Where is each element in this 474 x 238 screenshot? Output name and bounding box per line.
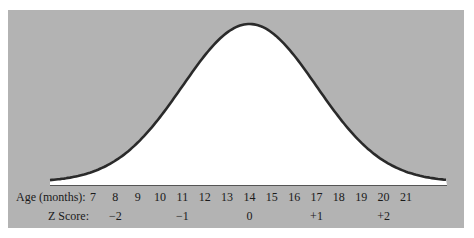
age-tick-19: 19 <box>355 190 367 205</box>
z-score-tick: +2 <box>377 209 390 224</box>
z-score-tick: 0 <box>246 209 252 224</box>
age-tick-17: 17 <box>311 190 323 205</box>
age-tick-16: 16 <box>288 190 300 205</box>
age-tick-10: 10 <box>154 190 166 205</box>
age-tick-7: 7 <box>90 190 96 205</box>
age-tick-13: 13 <box>221 190 233 205</box>
age-tick-14: 14 <box>243 190 255 205</box>
age-tick-12: 12 <box>199 190 211 205</box>
age-tick-20: 20 <box>378 190 390 205</box>
z-score-tick: −1 <box>176 209 189 224</box>
z-score-tick: +1 <box>310 209 323 224</box>
age-tick-8: 8 <box>112 190 118 205</box>
age-tick-18: 18 <box>333 190 345 205</box>
age-tick-9: 9 <box>135 190 141 205</box>
curve-area-fill <box>50 24 447 185</box>
age-tick-15: 15 <box>266 190 278 205</box>
age-tick-11: 11 <box>177 190 189 205</box>
age-axis-label: Age (months): <box>16 190 86 205</box>
z-score-tick: −2 <box>109 209 122 224</box>
z-score-axis-label: Z Score: <box>48 209 89 224</box>
age-tick-21: 21 <box>400 190 412 205</box>
